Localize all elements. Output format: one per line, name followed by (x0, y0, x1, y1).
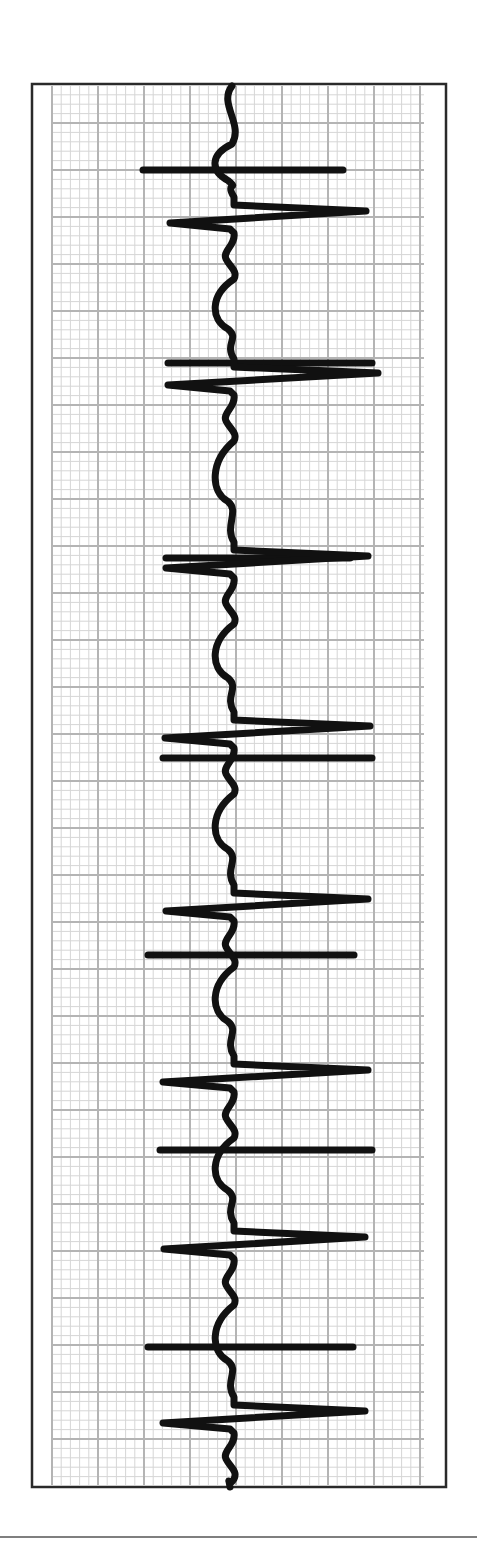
grid-major-lines (52, 86, 424, 1485)
ecg-chart (0, 0, 477, 1544)
ecg-trace (163, 86, 378, 1487)
grid-minor-lines (52, 86, 424, 1485)
strip-frame (32, 84, 446, 1487)
ecg-strip-figure: ECG rhythm strip on standard grid paper,… (0, 0, 477, 1544)
